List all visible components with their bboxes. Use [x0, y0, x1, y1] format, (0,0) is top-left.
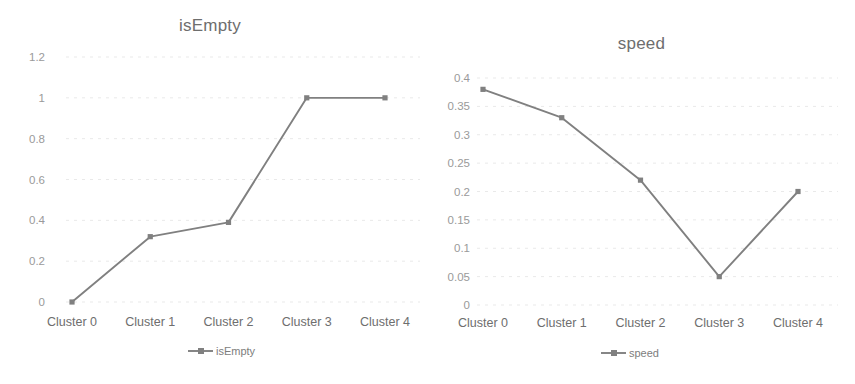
x-axis-category-label: Cluster 3: [282, 315, 332, 329]
legend-label-speed: speed: [629, 347, 659, 359]
x-axis-category-label: Cluster 0: [47, 315, 97, 329]
data-point-marker[interactable]: [717, 274, 722, 279]
data-point-marker[interactable]: [559, 115, 564, 120]
data-point-marker[interactable]: [148, 234, 153, 239]
series-line-isEmpty: [72, 98, 385, 302]
y-axis-tick-label: 1: [39, 92, 45, 104]
x-axis-category-label: Cluster 0: [458, 316, 508, 330]
y-axis-tick-label: 0.3: [454, 129, 470, 141]
y-axis-tick-label: 0.4: [454, 72, 471, 84]
x-axis-category-label: Cluster 1: [125, 315, 175, 329]
data-point-marker[interactable]: [795, 189, 800, 194]
y-axis-tick-label: 0: [39, 296, 45, 308]
data-point-marker[interactable]: [480, 87, 485, 92]
y-axis-tick-label: 0.35: [448, 100, 470, 112]
chart-svg-speed: 0.40.350.30.250.20.150.10.050Cluster 0Cl…: [428, 0, 855, 384]
y-axis-tick-label: 0.25: [448, 157, 470, 169]
y-axis-tick-label: 0.8: [29, 133, 45, 145]
data-point-marker[interactable]: [69, 299, 74, 304]
x-axis-category-label: Cluster 4: [360, 315, 410, 329]
data-point-marker[interactable]: [304, 95, 309, 100]
y-axis-tick-label: 1.2: [29, 51, 45, 63]
data-point-marker[interactable]: [226, 220, 231, 225]
chart-page: isEmpty 1.210.80.60.40.20Cluster 0Cluste…: [0, 0, 855, 384]
x-axis-category-label: Cluster 3: [694, 316, 744, 330]
y-axis-tick-label: 0.2: [454, 186, 470, 198]
legend-marker-swatch: [611, 350, 617, 356]
legend-label-isEmpty: isEmpty: [216, 345, 256, 357]
y-axis-tick-label: 0.6: [29, 174, 45, 186]
y-axis-tick-label: 0: [464, 299, 470, 311]
data-point-marker[interactable]: [638, 178, 643, 183]
chart-panel-speed: speed 0.40.350.30.250.20.150.10.050Clust…: [428, 0, 855, 384]
x-axis-category-label: Cluster 4: [773, 316, 823, 330]
x-axis-category-label: Cluster 2: [203, 315, 253, 329]
legend-marker-swatch: [198, 348, 204, 354]
y-axis-tick-label: 0.1: [454, 242, 470, 254]
y-axis-tick-label: 0.15: [448, 214, 470, 226]
x-axis-category-label: Cluster 1: [537, 316, 587, 330]
y-axis-tick-label: 0.4: [29, 214, 46, 226]
y-axis-tick-label: 0.2: [29, 255, 45, 267]
x-axis-category-label: Cluster 2: [615, 316, 665, 330]
y-axis-tick-label: 0.05: [448, 271, 470, 283]
chart-panel-isempty: isEmpty 1.210.80.60.40.20Cluster 0Cluste…: [0, 0, 430, 384]
data-point-marker[interactable]: [382, 95, 387, 100]
chart-svg-isempty: 1.210.80.60.40.20Cluster 0Cluster 1Clust…: [0, 0, 430, 384]
